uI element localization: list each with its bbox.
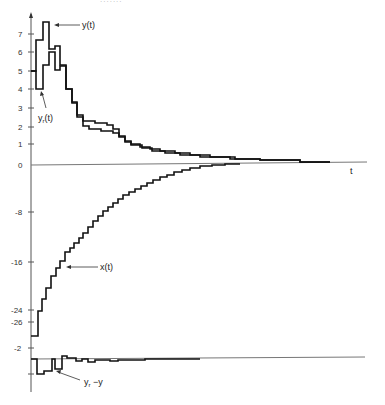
arrow-icon bbox=[66, 265, 71, 269]
tick-label-7: 7 bbox=[18, 30, 23, 39]
y-t-label: y(t) bbox=[82, 20, 95, 30]
series-x-t bbox=[31, 164, 240, 336]
y-axis-arrow-icon bbox=[29, 12, 33, 18]
tick-label-neg8: -8 bbox=[15, 208, 23, 217]
tick-label-neg24: -24 bbox=[11, 306, 23, 315]
diff-pointer bbox=[58, 372, 80, 380]
tick-label-1: 1 bbox=[18, 140, 23, 149]
tick-label-4: 4 bbox=[18, 85, 23, 94]
diff-label: yr −y bbox=[84, 377, 103, 388]
t-axis-label: t bbox=[350, 166, 353, 176]
arrow-icon bbox=[54, 23, 59, 27]
tick-label-neg26: -26 bbox=[11, 318, 23, 327]
tick-label-5: 5 bbox=[18, 67, 23, 76]
yr-t-label: yr(t) bbox=[38, 113, 53, 124]
tick-label-2: 2 bbox=[18, 123, 23, 132]
series-yr-t bbox=[31, 52, 330, 162]
tick-label-6: 6 bbox=[18, 48, 23, 57]
arrow-icon bbox=[56, 370, 61, 374]
tick-label-neg2: -2 bbox=[14, 344, 22, 353]
tick-label-0: 0 bbox=[18, 161, 23, 170]
chart-area: t 7 6 5 4 3 2 1 0 -8 -16 -24 -26 -2 y(t) bbox=[0, 0, 385, 405]
tick-label-3: 3 bbox=[18, 104, 23, 113]
arrow-icon bbox=[40, 91, 44, 96]
x-t-label: x(t) bbox=[100, 262, 113, 272]
tick-label-neg16: -16 bbox=[11, 258, 23, 267]
series-y-t bbox=[31, 22, 330, 162]
